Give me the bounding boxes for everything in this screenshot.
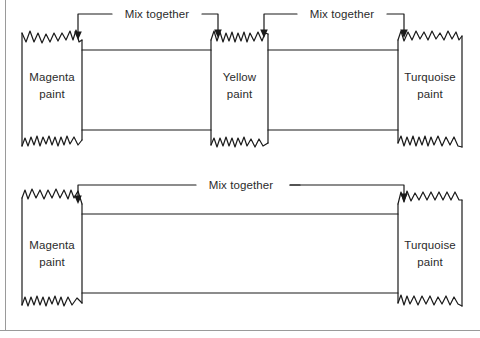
arrowhead-down-left-top	[74, 32, 82, 41]
turquoise-paint-swatch-top	[398, 31, 462, 147]
turquoise-top-torn-edge-bottom	[398, 191, 462, 204]
mix-band-bottom	[82, 214, 398, 293]
mix-leader-bottom-bracket-left	[78, 185, 196, 200]
turquoise-paint-swatch-bottom	[398, 191, 462, 306]
magenta-bottom-torn-edge	[22, 136, 82, 146]
bottom-diagram	[22, 185, 462, 306]
arrowhead-down-right-bottom	[400, 194, 408, 203]
yellow-bottom-torn-edge	[211, 137, 268, 147]
mix-leader-bottom	[74, 185, 408, 204]
yellow-paint-swatch	[211, 31, 268, 147]
mix-leader-left-top-bracket	[78, 14, 112, 36]
magenta-top-torn-edge	[22, 30, 82, 43]
magenta-paint-swatch-top	[22, 30, 82, 146]
magenta-top-torn-edge-bottom	[22, 189, 82, 204]
mix-leader-left-top	[74, 14, 222, 40]
page-frame	[0, 0, 480, 331]
mix-leader-right-top	[260, 14, 408, 38]
mix-band-right-top	[268, 50, 398, 130]
diagram-canvas: Mix together Mix together Magenta paint …	[0, 0, 480, 338]
mix-leader-bottom-bracket-right	[290, 185, 404, 197]
turquoise-bottom-torn-edge-bottom	[398, 295, 462, 306]
magenta-bottom-torn-edge-bottom	[22, 296, 82, 306]
mix-leader-right-top-bracket	[264, 14, 297, 34]
turquoise-bottom-torn-edge	[398, 136, 462, 147]
magenta-paint-swatch-bottom	[22, 189, 82, 306]
top-diagram	[22, 14, 462, 147]
mix-band-left-top	[82, 50, 211, 130]
turquoise-top-torn-edge	[398, 31, 462, 41]
paint-mixing-illustration	[0, 0, 480, 338]
